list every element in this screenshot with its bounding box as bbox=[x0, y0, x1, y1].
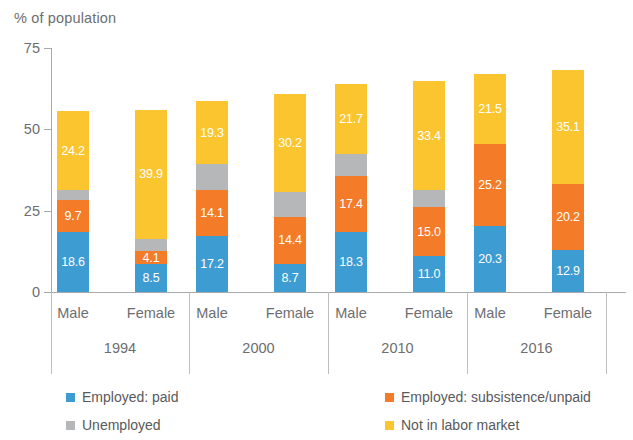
bar-value-label: 15.0 bbox=[413, 226, 445, 239]
bar-segment[interactable]: 20.3 bbox=[474, 226, 506, 292]
bar-segment[interactable] bbox=[196, 164, 228, 190]
bar-segment[interactable]: 30.2 bbox=[274, 94, 306, 192]
axis-group-label-1994: 1994 bbox=[60, 340, 180, 356]
group-divider bbox=[606, 292, 607, 374]
bar-segment[interactable]: 21.5 bbox=[474, 74, 506, 144]
bar-segment[interactable]: 24.2 bbox=[57, 111, 89, 190]
bar-segment[interactable]: 8.5 bbox=[135, 264, 167, 292]
bar-segment[interactable]: 17.4 bbox=[335, 176, 367, 233]
bar-segment[interactable]: 21.7 bbox=[335, 84, 367, 155]
bar-segment[interactable]: 17.2 bbox=[196, 236, 228, 292]
legend-swatch-icon bbox=[66, 393, 75, 402]
bar-value-label: 24.2 bbox=[57, 145, 89, 158]
bar-value-label: 35.1 bbox=[552, 121, 584, 134]
bar-segment[interactable]: 9.7 bbox=[57, 200, 89, 232]
bar-value-label: 14.4 bbox=[274, 234, 306, 247]
bar-segment[interactable]: 19.3 bbox=[196, 101, 228, 164]
bar-value-label: 12.9 bbox=[552, 265, 584, 278]
bar-segment[interactable] bbox=[135, 239, 167, 251]
bar-segment[interactable]: 14.1 bbox=[196, 190, 228, 236]
bar-2000-male[interactable]: 17.214.119.3 bbox=[196, 101, 228, 292]
bar-2016-male[interactable]: 20.325.221.5 bbox=[474, 74, 506, 292]
bar-segment[interactable]: 4.1 bbox=[135, 251, 167, 264]
legend-label: Unemployed bbox=[82, 417, 161, 433]
bar-segment[interactable]: 20.2 bbox=[552, 184, 584, 250]
bar-2010-male[interactable]: 18.317.421.7 bbox=[335, 84, 367, 292]
bar-2010-female[interactable]: 11.015.033.4 bbox=[413, 81, 445, 292]
bar-segment[interactable]: 39.9 bbox=[135, 110, 167, 240]
bars-layer: 18.69.724.28.54.139.917.214.119.38.714.4… bbox=[0, 48, 633, 292]
chart-legend: Employed: paidEmployed: subsistence/unpa… bbox=[0, 385, 633, 440]
bar-segment[interactable]: 18.6 bbox=[57, 232, 89, 293]
bar-value-label: 17.2 bbox=[196, 258, 228, 271]
axis-sublabel-female: Female bbox=[394, 305, 464, 321]
bar-segment[interactable] bbox=[274, 192, 306, 217]
category-axis: MaleFemaleMaleFemaleMaleFemaleMaleFemale… bbox=[0, 292, 633, 380]
legend-item[interactable]: Employed: subsistence/unpaid bbox=[385, 389, 591, 405]
axis-sublabel-female: Female bbox=[255, 305, 325, 321]
axis-sublabel-female: Female bbox=[116, 305, 186, 321]
bar-value-label: 9.7 bbox=[57, 209, 89, 222]
bar-value-label: 8.7 bbox=[274, 272, 306, 285]
axis-sublabel-female: Female bbox=[533, 305, 603, 321]
legend-item[interactable]: Employed: paid bbox=[66, 389, 179, 405]
stacked-bar-chart: % of population 0255075 18.69.724.28.54.… bbox=[0, 0, 633, 440]
bar-value-label: 19.3 bbox=[196, 127, 228, 140]
bar-value-label: 8.5 bbox=[135, 272, 167, 285]
legend-item[interactable]: Unemployed bbox=[66, 417, 161, 433]
bar-segment[interactable]: 14.4 bbox=[274, 217, 306, 264]
bar-segment[interactable] bbox=[57, 190, 89, 200]
bar-value-label: 20.3 bbox=[474, 253, 506, 266]
axis-group-label-2010: 2010 bbox=[338, 340, 458, 356]
bar-segment[interactable]: 12.9 bbox=[552, 250, 584, 292]
legend-swatch-icon bbox=[385, 393, 394, 402]
axis-sublabel-male: Male bbox=[177, 305, 247, 321]
bar-value-label: 20.2 bbox=[552, 211, 584, 224]
legend-item[interactable]: Not in labor market bbox=[385, 417, 519, 433]
bar-segment[interactable]: 35.1 bbox=[552, 70, 584, 184]
bar-2000-female[interactable]: 8.714.430.2 bbox=[274, 94, 306, 292]
legend-label: Not in labor market bbox=[401, 417, 519, 433]
legend-label: Employed: subsistence/unpaid bbox=[401, 389, 591, 405]
bar-value-label: 18.6 bbox=[57, 256, 89, 269]
bar-1994-male[interactable]: 18.69.724.2 bbox=[57, 111, 89, 292]
bar-segment[interactable] bbox=[413, 190, 445, 208]
bar-value-label: 25.2 bbox=[474, 179, 506, 192]
bar-segment[interactable]: 33.4 bbox=[413, 81, 445, 190]
legend-swatch-icon bbox=[385, 421, 394, 430]
bar-segment[interactable] bbox=[335, 154, 367, 175]
bar-value-label: 30.2 bbox=[274, 137, 306, 150]
bar-segment[interactable]: 25.2 bbox=[474, 144, 506, 226]
bar-value-label: 39.9 bbox=[135, 168, 167, 181]
bar-segment[interactable]: 8.7 bbox=[274, 264, 306, 292]
legend-label: Employed: paid bbox=[82, 389, 179, 405]
bar-value-label: 21.5 bbox=[474, 103, 506, 116]
bar-2016-female[interactable]: 12.920.235.1 bbox=[552, 70, 584, 292]
axis-sublabel-male: Male bbox=[316, 305, 386, 321]
plot-area: 0255075 18.69.724.28.54.139.917.214.119.… bbox=[0, 0, 633, 300]
bar-segment[interactable]: 18.3 bbox=[335, 232, 367, 292]
bar-value-label: 14.1 bbox=[196, 207, 228, 220]
bar-segment[interactable]: 15.0 bbox=[413, 207, 445, 256]
bar-value-label: 18.3 bbox=[335, 256, 367, 269]
axis-sublabel-male: Male bbox=[455, 305, 525, 321]
bar-value-label: 33.4 bbox=[413, 129, 445, 142]
axis-sublabel-male: Male bbox=[38, 305, 108, 321]
bar-value-label: 17.4 bbox=[335, 198, 367, 211]
bar-value-label: 11.0 bbox=[413, 268, 445, 281]
legend-swatch-icon bbox=[66, 421, 75, 430]
bar-segment[interactable]: 11.0 bbox=[413, 256, 445, 292]
axis-group-label-2000: 2000 bbox=[199, 340, 319, 356]
axis-group-label-2016: 2016 bbox=[477, 340, 597, 356]
bar-value-label: 4.1 bbox=[135, 251, 167, 264]
bar-value-label: 21.7 bbox=[335, 113, 367, 126]
bar-1994-female[interactable]: 8.54.139.9 bbox=[135, 110, 167, 292]
